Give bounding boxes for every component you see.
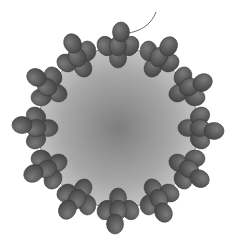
bead: [12, 117, 32, 134]
cell-body: [38, 48, 198, 208]
bead: [107, 214, 124, 234]
bead: [113, 22, 130, 42]
bead: [204, 123, 224, 140]
cell-illustration: [0, 0, 232, 239]
